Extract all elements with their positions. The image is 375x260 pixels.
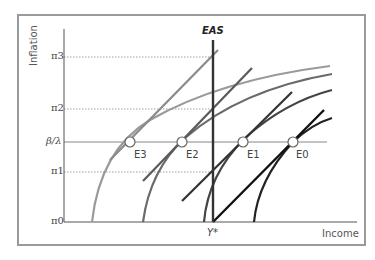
line-e0 [213,110,324,222]
point-e3 [125,137,135,147]
point-e0 [288,137,298,147]
eas-label: EAS [202,25,224,36]
point-e2 [177,137,187,147]
tick-beta-lambda: β/λ [46,135,62,146]
tick-pi3: π3 [51,50,64,61]
tick-pi0: π0 [51,215,64,226]
label-e1: E1 [247,149,260,160]
label-e2: E2 [186,149,199,160]
tick-pi2: π2 [51,102,64,113]
y-axis-label: Inflation [28,25,39,66]
line-e2 [143,68,252,181]
tick-pi1: π1 [51,165,64,176]
line-e1 [182,92,292,201]
label-e3: E3 [134,149,147,160]
x-axis-label: Income [322,228,359,239]
tick-y-star: Y* [207,227,218,238]
label-e0: E0 [296,149,309,160]
point-e1 [238,137,248,147]
